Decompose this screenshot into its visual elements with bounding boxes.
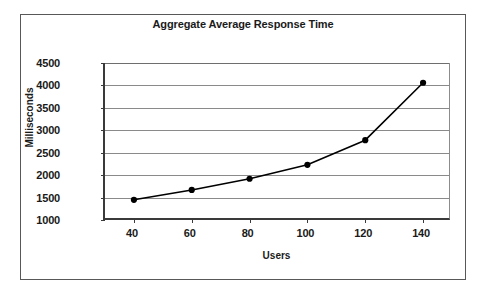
y-axis-title: Milliseconds [24, 68, 35, 168]
chart-figure: Aggregate Average Response Time 10001500… [0, 0, 486, 297]
y-axis-tick-labels: 10001500200025003000350040004500 [0, 0, 100, 297]
y-axis-tick-label: 1000 [2, 214, 60, 226]
x-axis-tick-label: 80 [225, 227, 271, 239]
data-point [304, 162, 310, 168]
data-point [362, 137, 368, 143]
y-axis-tick-label: 1500 [2, 192, 60, 204]
series-markers [131, 80, 426, 203]
series-line [105, 63, 452, 220]
data-point [420, 80, 426, 86]
data-point [246, 176, 252, 182]
y-axis-tick [101, 220, 105, 221]
plot-area [103, 63, 450, 220]
x-axis-tick-label: 140 [398, 227, 444, 239]
y-axis-tick-label: 2000 [2, 169, 60, 181]
x-axis-tick-label: 40 [109, 227, 155, 239]
x-axis-tick-labels: 406080100120140 [103, 227, 450, 245]
data-point [189, 187, 195, 193]
x-axis-tick-label: 120 [340, 227, 386, 239]
x-axis-tick-label: 60 [167, 227, 213, 239]
x-axis-tick-label: 100 [282, 227, 328, 239]
x-axis-title: Users [103, 250, 450, 261]
data-point [131, 197, 137, 203]
